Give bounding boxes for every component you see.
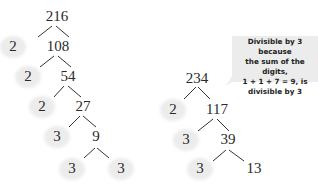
callout-line: 1 + 1 + 7 = 9, is (232, 77, 318, 87)
node-2: 2 (169, 101, 177, 117)
node-234: 234 (186, 70, 209, 86)
callout-text: Divisible by 3 because the sum of the di… (232, 37, 318, 97)
callout-line: divisible by 3 (232, 87, 318, 97)
factor-tree-diagram: 216 2 108 2 54 2 27 3 9 3 3 Divisible by… (0, 0, 318, 184)
node-13: 13 (247, 160, 262, 176)
node-3: 3 (182, 131, 190, 147)
node-39: 39 (221, 131, 236, 147)
node-3: 3 (196, 160, 204, 176)
callout-line: Divisible by 3 because (232, 37, 318, 57)
callout-line: the sum of the digits, (232, 57, 318, 77)
node-117: 117 (206, 101, 228, 117)
